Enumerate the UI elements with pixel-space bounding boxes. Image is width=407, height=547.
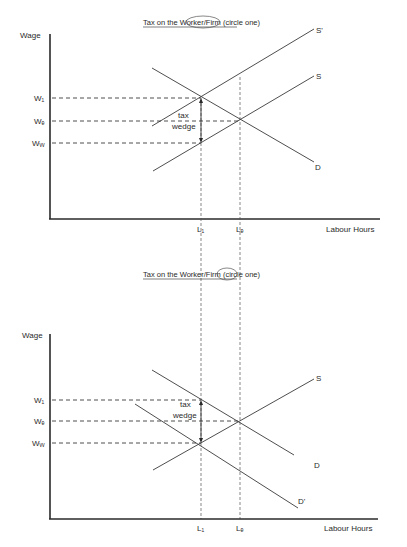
quantity-label-le: Lₑ [236,524,243,533]
demand-curve-d-shifted [135,404,298,508]
wage-label-w1: W₁ [34,94,45,103]
curve-label-s-shifted: S' [316,26,323,35]
wage-label-we: Wₑ [34,117,45,126]
supply-curve-s-shifted [152,29,314,126]
quantity-label-l1: L₁ [197,225,204,234]
curve-label-s: S [316,374,321,383]
supply-curve-s [153,379,314,470]
demand-curve-d [152,68,314,162]
y-axis-label: Wage [22,331,43,340]
arrow-head-up [199,400,203,405]
curve-label-s: S [316,72,321,81]
x-axis-label: Labour Hours [326,225,374,234]
quantity-label-le: Lₑ [236,225,243,234]
wage-label-w1: W₁ [34,396,45,405]
wage-label-we: Wₑ [34,417,45,426]
diagram-title: Tax on the Worker/Firm (circle one) [143,270,261,279]
curve-label-d: D [315,163,321,172]
x-axis-label: Labour Hours [324,524,372,533]
curve-label-d: D [314,461,320,470]
diagram-tax-on-firm: Tax on the Worker/Firm (circle one) Wage… [22,268,378,533]
arrow-head-up [199,98,203,103]
tax-wedge-label-line2: wedge [172,411,197,420]
tax-wedge-diagrams: Tax on the Worker/Firm (circle one) Wage… [0,0,407,547]
curve-label-d-shifted: D' [298,497,306,506]
diagram-title: Tax on the Worker/Firm (circle one) [143,18,261,27]
tax-wedge-label-line2: wedge [171,122,196,131]
quantity-label-l1: L₁ [197,524,204,533]
y-axis-label: Wage [20,31,41,40]
tax-wedge-label-line1: tax [178,111,189,120]
tax-wedge-label-line1: tax [180,400,191,409]
wage-label-ww: Wᵥᵥ [32,139,45,148]
wage-label-ww: Wᵥᵥ [32,439,45,448]
